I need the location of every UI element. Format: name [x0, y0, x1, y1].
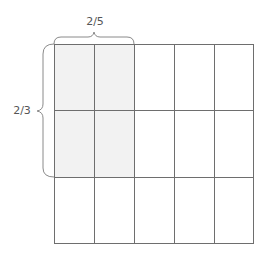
fraction-area-model: 2/5 2/3: [0, 0, 267, 253]
left-brace-icon: [37, 44, 54, 177]
left-fraction-label: 2/3: [11, 105, 33, 116]
top-fraction-label: 2/5: [84, 16, 106, 27]
area-model-svg: [0, 0, 267, 253]
top-brace-icon: [54, 32, 134, 44]
